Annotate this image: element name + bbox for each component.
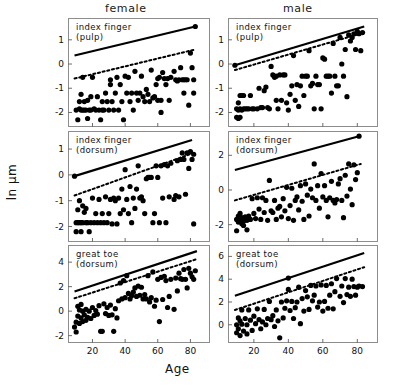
data-point	[111, 107, 116, 112]
data-point	[108, 77, 113, 82]
data-point	[158, 98, 163, 103]
data-point	[275, 106, 280, 111]
panel-title: great toe (dorsum)	[76, 249, 119, 269]
data-point	[251, 211, 256, 216]
data-point	[186, 266, 191, 271]
data-point	[332, 74, 337, 79]
data-point	[95, 94, 100, 99]
data-point	[286, 107, 291, 112]
data-point	[116, 107, 121, 112]
data-point	[165, 305, 170, 310]
data-point	[293, 98, 298, 103]
x-tick-label: 20	[81, 346, 103, 356]
data-point	[78, 92, 83, 97]
data-point	[262, 307, 267, 312]
data-point	[118, 82, 123, 87]
data-point	[298, 83, 303, 88]
data-point	[193, 268, 198, 273]
data-point	[234, 228, 239, 233]
data-point	[251, 314, 256, 319]
data-point	[319, 106, 324, 111]
data-point	[322, 57, 327, 62]
data-point	[344, 94, 349, 99]
data-point	[142, 99, 147, 104]
data-point	[260, 105, 265, 110]
data-point	[324, 283, 329, 288]
data-point	[237, 115, 242, 120]
data-point	[350, 202, 355, 207]
data-point	[181, 267, 186, 272]
data-point	[119, 99, 124, 104]
panel-title: index finger (pulp)	[236, 22, 292, 42]
data-point	[167, 98, 172, 103]
data-point	[339, 198, 344, 203]
data-point	[272, 198, 277, 203]
data-point	[178, 65, 183, 70]
data-point	[358, 48, 363, 53]
data-point	[142, 211, 147, 216]
data-point	[256, 206, 261, 211]
plot-panel-male-index-finger-dorsum: index finger (dorsum)20-2	[228, 131, 378, 242]
data-point	[291, 218, 296, 223]
data-point	[348, 187, 353, 192]
data-point	[80, 75, 85, 80]
data-point	[303, 288, 308, 293]
data-point	[263, 322, 268, 327]
data-point	[180, 150, 185, 155]
data-point	[188, 51, 193, 56]
data-point	[346, 285, 351, 290]
data-point	[85, 116, 90, 121]
data-point	[300, 296, 305, 301]
data-point	[168, 161, 173, 166]
data-point	[360, 30, 365, 35]
data-point	[256, 86, 261, 91]
data-point	[121, 278, 126, 283]
data-point	[74, 229, 79, 234]
data-point	[284, 100, 289, 105]
data-point	[136, 98, 141, 103]
data-point	[126, 75, 131, 80]
data-point	[123, 167, 128, 172]
data-point	[109, 312, 114, 317]
data-point	[315, 183, 320, 188]
data-point	[272, 324, 277, 329]
data-point	[282, 306, 287, 311]
y-tick-label: -1	[42, 83, 64, 93]
data-point	[191, 221, 196, 226]
data-point	[72, 174, 77, 179]
data-point	[167, 294, 172, 299]
data-point	[332, 289, 337, 294]
data-point	[348, 294, 353, 299]
data-point	[322, 183, 327, 188]
data-point	[185, 285, 190, 290]
data-point	[131, 196, 136, 201]
y-tick-label: -2	[42, 331, 64, 341]
data-point	[96, 197, 101, 202]
data-point	[250, 196, 255, 201]
data-point	[191, 152, 196, 157]
y-tick-label: 0	[42, 170, 64, 180]
data-point	[303, 181, 308, 186]
y-tick-label: 2	[42, 282, 64, 292]
data-point	[239, 307, 244, 312]
data-point	[244, 331, 249, 336]
plot-panel-female-index-finger-dorsum: index finger (dorsum)10-1-2	[68, 131, 210, 242]
data-point	[121, 207, 126, 212]
data-point	[255, 195, 260, 200]
data-point	[301, 93, 306, 98]
data-point	[129, 220, 134, 225]
data-point	[75, 117, 80, 122]
data-point	[154, 82, 159, 87]
data-point	[232, 63, 237, 68]
data-point	[140, 198, 145, 203]
data-point	[296, 104, 301, 109]
data-point	[336, 181, 341, 186]
data-point	[100, 329, 105, 334]
y-tick-label: 0	[42, 59, 64, 69]
data-point	[312, 106, 317, 111]
data-point	[284, 298, 289, 303]
data-point	[248, 217, 253, 222]
data-point	[83, 206, 88, 211]
data-point	[191, 277, 196, 282]
data-point	[157, 220, 162, 225]
